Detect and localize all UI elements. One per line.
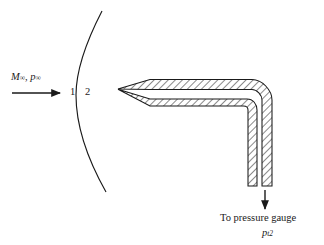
region-label-2: 2 <box>85 87 90 98</box>
freestream-conditions-label: M∞, p∞ <box>11 72 41 83</box>
bow-shock-wave <box>76 11 106 192</box>
shock-wave-curve <box>76 11 106 192</box>
mach-symbol: M <box>11 71 20 82</box>
figure-pitot-tube-bow-shock: M∞, p∞ 1 2 To pressure gauge pt2 <box>0 0 324 245</box>
pitot-inner-wall <box>118 89 257 186</box>
diagram-canvas <box>0 0 324 245</box>
total-pressure-label: pt2 <box>262 228 273 239</box>
region-label-1: 1 <box>70 87 75 98</box>
pressure-gauge-label: To pressure gauge <box>220 213 296 224</box>
pitot-tube <box>118 80 272 187</box>
pressure-subscript: ∞ <box>36 73 41 82</box>
pt2-subscript: t2 <box>267 229 273 238</box>
